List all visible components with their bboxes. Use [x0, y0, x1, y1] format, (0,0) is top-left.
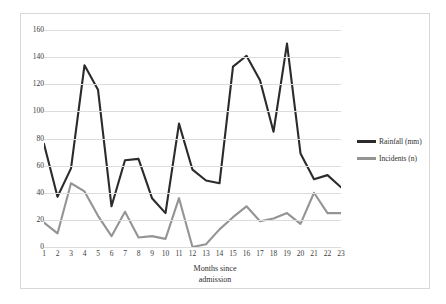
x-tick-label-11: 11 — [175, 249, 182, 259]
gridline-100 — [44, 111, 341, 112]
chart-figure: 020406080100120140160 123456789101112131… — [0, 0, 446, 304]
chart-legend: Rainfall (mm)Incidents (n) — [357, 136, 437, 170]
x-tick-label-4: 4 — [83, 249, 87, 259]
y-axis: 020406080100120140160 — [20, 24, 44, 254]
gridline-40 — [44, 193, 341, 194]
x-tick-label-8: 8 — [137, 249, 141, 259]
y-tick-label-140: 140 — [33, 53, 44, 61]
plot-area — [44, 30, 341, 247]
x-tick-label-19: 19 — [283, 249, 291, 259]
x-tick-label-18: 18 — [270, 249, 278, 259]
x-tick-label-6: 6 — [110, 249, 114, 259]
x-axis-title-line1: Months since — [150, 263, 280, 274]
x-tick-label-13: 13 — [202, 249, 210, 259]
x-tick-label-14: 14 — [216, 249, 224, 259]
legend-swatch-icon — [357, 157, 376, 160]
x-tick-label-20: 20 — [297, 249, 305, 259]
x-tick-label-15: 15 — [229, 249, 237, 259]
gridline-140 — [44, 57, 341, 58]
x-axis-title: Months since admission — [150, 263, 280, 285]
y-tick-label-40: 40 — [37, 189, 45, 197]
legend-swatch-icon — [357, 140, 376, 143]
y-tick-label-80: 80 — [37, 135, 45, 143]
legend-item-label: Rainfall (mm) — [379, 137, 422, 146]
x-axis: 1234567891011121314151617181920212223 — [44, 249, 341, 263]
x-tick-label-5: 5 — [96, 249, 100, 259]
y-tick-label-60: 60 — [37, 162, 45, 170]
legend-item-1[interactable]: Incidents (n) — [357, 153, 437, 163]
x-tick-label-23: 23 — [337, 249, 345, 259]
x-tick-label-1: 1 — [42, 249, 46, 259]
x-tick-label-17: 17 — [256, 249, 264, 259]
x-tick-label-10: 10 — [162, 249, 170, 259]
x-tick-label-7: 7 — [123, 249, 127, 259]
y-tick-label-160: 160 — [33, 26, 44, 34]
gridline-160 — [44, 30, 341, 31]
gridline-80 — [44, 139, 341, 140]
series-line-rainfall-mm — [44, 44, 341, 214]
x-tick-label-3: 3 — [69, 249, 73, 259]
gridline-0 — [44, 247, 341, 248]
gridline-120 — [44, 84, 341, 85]
x-tick-label-21: 21 — [310, 249, 318, 259]
y-tick-label-100: 100 — [33, 107, 44, 115]
legend-item-0[interactable]: Rainfall (mm) — [357, 136, 437, 146]
x-tick-label-2: 2 — [56, 249, 60, 259]
y-tick-label-20: 20 — [37, 216, 45, 224]
y-tick-label-120: 120 — [33, 80, 44, 88]
legend-item-label: Incidents (n) — [379, 154, 417, 163]
gridline-20 — [44, 220, 341, 221]
x-axis-title-line2: admission — [150, 274, 280, 285]
x-tick-label-12: 12 — [189, 249, 197, 259]
x-tick-label-22: 22 — [324, 249, 332, 259]
x-tick-label-16: 16 — [243, 249, 251, 259]
gridline-60 — [44, 166, 341, 167]
x-tick-label-9: 9 — [150, 249, 154, 259]
